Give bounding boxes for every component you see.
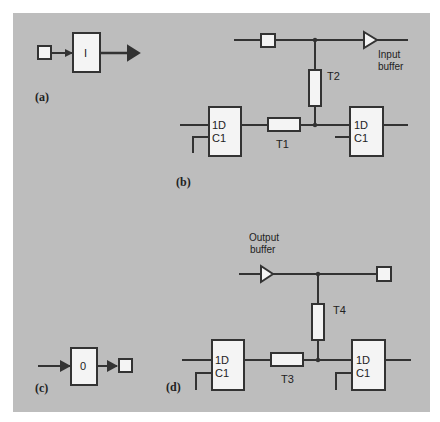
panel-label-a: (a) <box>35 90 49 104</box>
output-buffer-icon <box>261 266 273 282</box>
ff-left-d: 1D <box>215 354 229 366</box>
panel-a <box>38 33 139 72</box>
ff-left-c: C1 <box>215 367 229 379</box>
panel-label-b: (b) <box>176 175 191 189</box>
input-buffer-label-2: buffer <box>378 61 404 72</box>
panel-label-d: (d) <box>166 380 181 394</box>
ff-right-d: 1D <box>354 119 368 131</box>
pin-square <box>261 34 275 47</box>
gate-t1-label: T1 <box>276 138 289 150</box>
panel-label-c: (c) <box>35 381 48 395</box>
gate-t1 <box>268 118 300 131</box>
arrow-right-icon <box>60 360 71 372</box>
gate-t3-label: T3 <box>281 373 294 385</box>
cell-symbol-c: 0 <box>80 360 86 372</box>
cell-symbol-a: I <box>84 47 87 59</box>
pin-square <box>377 267 391 281</box>
output-buffer-label-2: buffer <box>250 244 276 255</box>
ff-right-c: C1 <box>354 132 368 144</box>
gate-t4-label: T4 <box>333 304 346 316</box>
ff-right-c: C1 <box>356 367 370 379</box>
input-buffer-icon <box>364 32 377 48</box>
boundary-scan-diagram: I (a) Input buffer T2 T1 1D C1 1D C1 (b)… <box>0 0 440 422</box>
pin-square <box>38 46 51 59</box>
ff-right-d: 1D <box>356 354 370 366</box>
pin-square <box>119 359 132 372</box>
ff-left-d: 1D <box>212 119 226 131</box>
gate-t2-label: T2 <box>327 70 340 82</box>
gate-t2 <box>309 70 321 106</box>
output-buffer-label: Output <box>249 232 279 243</box>
gate-t3 <box>271 353 303 366</box>
ff-left-c: C1 <box>212 132 226 144</box>
gate-t4 <box>312 304 324 340</box>
input-buffer-label: Input <box>378 49 400 60</box>
arrow-right-icon <box>128 46 139 60</box>
arrow-right-icon <box>107 360 118 372</box>
